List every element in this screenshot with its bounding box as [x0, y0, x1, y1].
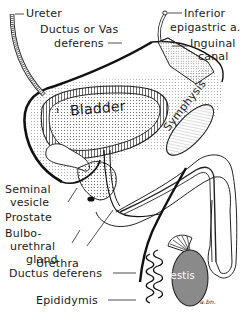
epididymis: [146, 250, 162, 303]
prostate-leader: [68, 188, 77, 202]
label-testis: Testis: [166, 270, 195, 281]
label-ductus-or-vas-line2: deferens: [54, 38, 104, 49]
label-ductus-or-vas-line1: Ductus or Vas: [40, 24, 119, 35]
testis-head: [168, 235, 192, 252]
urethra-leader: [87, 210, 113, 246]
label-bulbo-line2: urethral: [10, 241, 55, 252]
label-bulbo-line1: Bulbo-: [5, 228, 42, 239]
label-ureter: Ureter: [26, 8, 62, 19]
label-inferior-epigastric-line1: Inferior: [184, 8, 225, 19]
label-seminal-line2: vesicle: [10, 197, 49, 208]
anatomy-diagram: Ureter Ductus or Vas deferens Inferior e…: [0, 0, 246, 315]
label-prostate: Prostate: [5, 212, 52, 223]
bulbo-leader: [72, 230, 80, 243]
label-inferior-epigastric-line2: epigastric a.: [170, 22, 241, 33]
label-seminal-line1: Seminal: [5, 184, 51, 195]
label-ductus-deferens: Ductus deferens: [9, 268, 102, 279]
artist-signature: a.bn.: [200, 296, 216, 307]
label-epididymis: Epididymis: [36, 295, 98, 306]
label-inguinal-line1: Inguinal: [190, 38, 236, 49]
label-inguinal-line2: canal: [198, 51, 229, 62]
penis: [96, 155, 237, 278]
bulbourethral-gland: [87, 196, 94, 201]
inferior-epigastric-artery: [159, 11, 167, 42]
